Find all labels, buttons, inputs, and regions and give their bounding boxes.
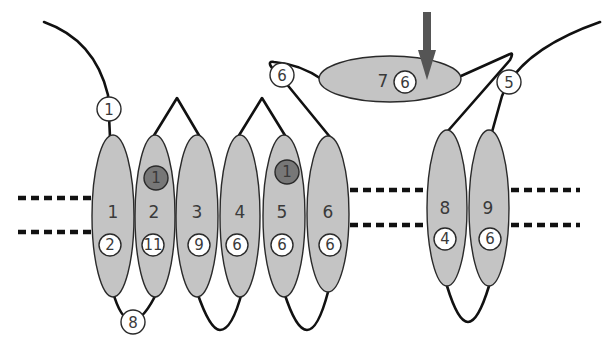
helix-8: 8 4 (427, 130, 467, 286)
helix-2-label: 2 (149, 202, 160, 222)
loop-5-6 (284, 292, 328, 330)
helix-5-badge-text: 6 (277, 236, 287, 254)
helix-5-label: 5 (277, 202, 288, 222)
helix-2-badge-text: 11 (143, 236, 162, 254)
helix-9: 9 6 (469, 130, 509, 286)
helix-8-label: 8 (440, 198, 451, 218)
helix-9-badge-text: 6 (485, 230, 495, 248)
loop-1-2-badge-text: 8 (128, 314, 138, 332)
helix-8-badge-text: 4 (440, 230, 450, 248)
helix-2-top-badge-text: 1 (151, 169, 161, 187)
loop-8-9 (447, 286, 489, 322)
c-terminus-badge: 5 (497, 70, 521, 94)
helix-1-badge-text: 2 (105, 236, 115, 254)
loop-3-4 (197, 292, 242, 330)
loop-6-7-badge-text: 6 (277, 67, 287, 85)
helix-1-label: 1 (108, 202, 119, 222)
helix-4: 4 6 (220, 135, 260, 297)
helix-2: 1 2 11 (135, 135, 175, 297)
helix-4-badge-text: 6 (232, 236, 242, 254)
helix-3-badge-text: 9 (194, 236, 204, 254)
topology-diagram: 1 2 1 2 11 3 9 4 6 1 5 6 6 6 8 (0, 0, 614, 348)
domain-7: 7 6 (319, 56, 461, 102)
helix-5: 1 5 6 (263, 135, 305, 297)
domain-7-label: 7 (378, 71, 389, 91)
helix-3-label: 3 (192, 202, 203, 222)
loop-6-7-badge: 6 (270, 63, 294, 87)
helix-5-top-badge-text: 1 (282, 163, 292, 181)
loop-2-3 (153, 98, 200, 137)
helix-1: 1 2 (92, 135, 134, 297)
helix-9-label: 9 (483, 198, 494, 218)
helix-4-label: 4 (235, 202, 246, 222)
helix-6-label: 6 (323, 202, 334, 222)
helix-3: 3 9 (176, 135, 218, 297)
n-terminus-tail (44, 22, 110, 137)
helix-6-badge-text: 6 (325, 236, 335, 254)
domain-7-badge-text: 6 (400, 74, 410, 92)
loop-4-5 (238, 98, 286, 137)
n-terminus-badge-text: 1 (104, 101, 114, 119)
helix-6: 6 6 (307, 136, 349, 292)
n-terminus-badge: 1 (97, 97, 121, 121)
loop-1-2-badge: 8 (121, 310, 145, 334)
c-terminus-badge-text: 5 (504, 74, 514, 92)
